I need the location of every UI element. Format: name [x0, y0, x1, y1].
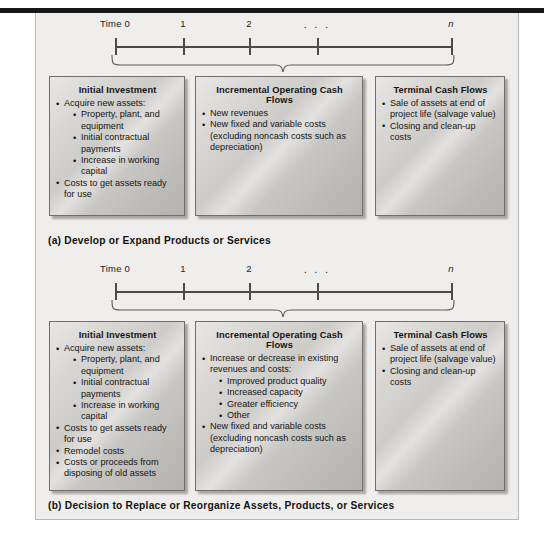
timeline-a: Time 012. . .n	[36, 13, 520, 75]
timeline-label-a-2: 2	[246, 18, 251, 29]
timeline-label-a-0: Time 0	[100, 18, 130, 29]
flow-box-initial-investment: Initial InvestmentAcquire new assets:Pro…	[49, 76, 185, 216]
bullet-item: Increased capacity	[219, 387, 357, 398]
timeline-tick-b-3	[317, 283, 319, 300]
flow-box-title: Incremental Operating Cash Flows	[202, 330, 357, 350]
timeline-label-a-1: 1	[180, 18, 185, 29]
bullet-item: New fixed and variable costs (excluding …	[202, 421, 357, 455]
bullet-item: New revenues	[202, 108, 357, 119]
bullet-item: New fixed and variable costs (excluding …	[202, 119, 357, 153]
timeline-tick-a-0	[115, 38, 117, 55]
subfigure-a: Time 012. . .n Initial InvestmentAcquire…	[36, 13, 520, 258]
bullet-item: Increase in working capital	[73, 155, 179, 178]
bullet-item: Acquire new assets:Property, plant, and …	[56, 98, 179, 178]
bullet-item: Increase in working capital	[73, 400, 179, 423]
timeline-tick-a-3	[317, 38, 319, 55]
timeline-axis-a	[115, 46, 451, 48]
bullet-list: Sale of assets at end of project life (s…	[382, 343, 499, 389]
flow-box-title: Initial Investment	[56, 85, 179, 95]
figure-panel: Time 012. . .n Initial InvestmentAcquire…	[35, 13, 519, 520]
bullet-list: Acquire new assets:Property, plant, and …	[56, 343, 179, 480]
timeline-tick-b-0	[115, 283, 117, 300]
flow-box-title: Initial Investment	[56, 330, 179, 340]
flow-box-terminal-cash-flows: Terminal Cash FlowsSale of assets at end…	[375, 76, 505, 216]
bullet-list: Acquire new assets:Property, plant, and …	[56, 98, 179, 201]
timeline-tick-b-1	[183, 283, 185, 300]
timeline-brace-b	[110, 300, 456, 318]
bullet-list: Increase or decrease in existing revenue…	[202, 353, 357, 456]
bullet-item: Greater efficiency	[219, 399, 357, 410]
flow-box-title: Terminal Cash Flows	[382, 85, 499, 95]
timeline-labels-b: Time 012. . .n	[36, 263, 520, 279]
bullet-item: Costs or proceeds from disposing of old …	[56, 457, 179, 480]
timeline-brace-a	[110, 55, 456, 73]
timeline-tick-a-4	[451, 38, 453, 55]
timeline-tick-b-2	[249, 283, 251, 300]
bullet-item: Closing and clean-up costs	[382, 121, 499, 144]
timeline-label-a-3: . . .	[304, 18, 330, 30]
timeline-tick-a-2	[249, 38, 251, 55]
figure-root: Time 012. . .n Initial InvestmentAcquire…	[0, 0, 544, 534]
timeline-label-a-4: n	[448, 18, 453, 29]
bullet-item: Other	[219, 410, 357, 421]
timeline-label-b-0: Time 0	[100, 263, 130, 274]
bullet-item: Costs to get assets ready for use	[56, 423, 179, 446]
bullet-item: Sale of assets at end of project life (s…	[382, 343, 499, 366]
bullet-list: Property, plant, and equipmentInitial co…	[64, 354, 179, 422]
timeline-label-b-1: 1	[180, 263, 185, 274]
flow-box-incremental-operating-cash-flows: Incremental Operating Cash FlowsIncrease…	[195, 321, 363, 491]
timeline-axis-b	[115, 291, 451, 293]
flow-box-title: Incremental Operating Cash Flows	[202, 85, 357, 105]
bullet-item: Remodel costs	[56, 446, 179, 457]
bullet-item: Improved product quality	[219, 376, 357, 387]
bullet-item: Sale of assets at end of project life (s…	[382, 98, 499, 121]
timeline-tick-b-4	[451, 283, 453, 300]
caption-a: (a) Develop or Expand Products or Servic…	[48, 235, 271, 246]
bullet-list: Property, plant, and equipmentInitial co…	[64, 109, 179, 177]
bullet-item: Property, plant, and equipment	[73, 109, 179, 132]
bullet-list: Sale of assets at end of project life (s…	[382, 98, 499, 144]
bullet-item: Acquire new assets:Property, plant, and …	[56, 343, 179, 423]
flow-box-terminal-cash-flows: Terminal Cash FlowsSale of assets at end…	[375, 321, 505, 491]
timeline-b: Time 012. . .n	[36, 258, 520, 320]
bullet-item: Property, plant, and equipment	[73, 354, 179, 377]
timeline-label-b-2: 2	[246, 263, 251, 274]
flow-box-initial-investment: Initial InvestmentAcquire new assets:Pro…	[49, 321, 185, 491]
bullet-item: Initial contractual payments	[73, 132, 179, 155]
bullet-item: Closing and clean-up costs	[382, 366, 499, 389]
timeline-labels-a: Time 012. . .n	[36, 18, 520, 34]
flow-box-title: Terminal Cash Flows	[382, 330, 499, 340]
subfigure-b: Time 012. . .n Initial InvestmentAcquire…	[36, 258, 520, 520]
bullet-list: Improved product qualityIncreased capaci…	[210, 376, 357, 422]
bullet-item: Increase or decrease in existing revenue…	[202, 353, 357, 421]
flow-box-incremental-operating-cash-flows: Incremental Operating Cash FlowsNew reve…	[195, 76, 363, 216]
timeline-tick-a-1	[183, 38, 185, 55]
bullet-list: New revenuesNew fixed and variable costs…	[202, 108, 357, 154]
timeline-label-b-4: n	[448, 263, 453, 274]
timeline-label-b-3: . . .	[304, 263, 330, 275]
bullet-item: Initial contractual payments	[73, 377, 179, 400]
caption-b: (b) Decision to Replace or Reorganize As…	[48, 500, 394, 511]
bullet-item: Costs to get assets ready for use	[56, 178, 179, 201]
